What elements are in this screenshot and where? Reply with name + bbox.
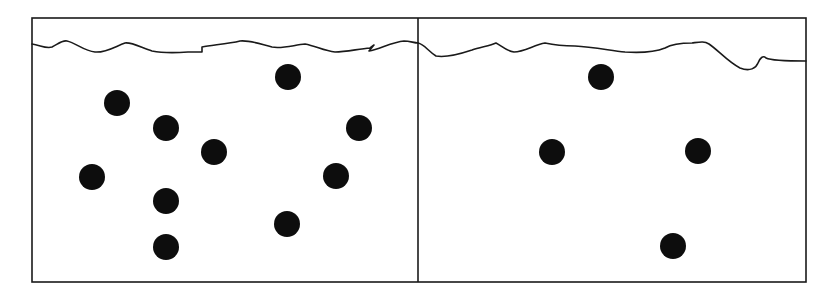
particle-dot xyxy=(685,138,711,164)
particle-dot xyxy=(153,234,179,260)
particle-dot xyxy=(660,233,686,259)
particle-dot xyxy=(79,164,105,190)
left-compartment-particles xyxy=(79,64,372,260)
particle-dot xyxy=(346,115,372,141)
particle-dot xyxy=(275,64,301,90)
right-liquid-surface xyxy=(418,42,806,70)
particle-dot xyxy=(274,211,300,237)
particle-dot xyxy=(104,90,130,116)
particle-dot xyxy=(153,115,179,141)
particle-dot xyxy=(588,64,614,90)
particle-dot xyxy=(201,139,227,165)
particle-dot xyxy=(323,163,349,189)
left-liquid-surface xyxy=(32,41,418,53)
right-compartment-particles xyxy=(539,64,711,259)
particle-dot xyxy=(153,188,179,214)
particle-dot xyxy=(539,139,565,165)
diffusion-diagram xyxy=(0,0,827,300)
